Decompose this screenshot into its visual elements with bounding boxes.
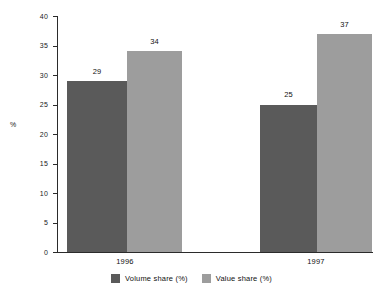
bar-value-1997[interactable]: [317, 34, 372, 252]
x-category-1997: 1997: [286, 258, 346, 266]
y-axis-line: [57, 16, 58, 253]
bar-volume-1997[interactable]: [260, 105, 317, 252]
legend-item-value-share[interactable]: Value share (%): [202, 274, 272, 283]
legend-label-value-share: Value share (%): [216, 275, 272, 283]
x-axis-line: [57, 252, 373, 253]
y-tick-mark-15: [53, 164, 57, 165]
y-tick-35: 35: [22, 42, 48, 49]
y-tick-0: 0: [22, 249, 48, 256]
legend-swatch-icon-volume-share: [111, 274, 120, 283]
y-tick-20: 20: [22, 131, 48, 138]
y-tick-mark-10: [53, 193, 57, 194]
bar-label-volume-1996: 29: [67, 68, 127, 76]
bar-value-1996[interactable]: [127, 51, 182, 252]
y-tick-5: 5: [22, 219, 48, 226]
legend-item-volume-share[interactable]: Volume share (%): [111, 274, 188, 283]
bar-label-volume-1997: 25: [260, 91, 317, 99]
y-tick-mark-25: [53, 105, 57, 106]
legend-swatch-icon-value-share: [202, 274, 211, 283]
y-tick-mark-0: [53, 252, 57, 253]
legend-label-volume-share: Volume share (%): [125, 275, 188, 283]
y-tick-mark-35: [53, 46, 57, 47]
y-tick-mark-5: [53, 223, 57, 224]
y-tick-mark-40: [53, 16, 57, 17]
bar-label-value-1997: 37: [317, 21, 372, 29]
x-category-1996: 1996: [95, 258, 155, 266]
bar-label-value-1996: 34: [127, 38, 182, 46]
chart-legend: Volume share (%) Value share (%): [0, 274, 383, 283]
y-tick-40: 40: [22, 13, 48, 20]
bar-volume-1996[interactable]: [67, 81, 127, 252]
y-tick-10: 10: [22, 190, 48, 197]
bar-chart: % 40 35 30 25 20 15 10 5 0 29 34 25 37 1…: [0, 0, 383, 300]
y-tick-mark-30: [53, 75, 57, 76]
y-tick-15: 15: [22, 160, 48, 167]
y-tick-30: 30: [22, 72, 48, 79]
y-axis-label: %: [10, 121, 16, 128]
y-tick-mark-20: [53, 134, 57, 135]
y-tick-25: 25: [22, 101, 48, 108]
